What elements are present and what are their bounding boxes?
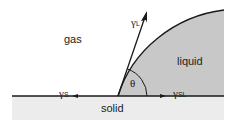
gas-label: gas	[64, 34, 82, 45]
contact-angle-diagram: gas liquid solid θ γL γS γSL	[0, 0, 228, 123]
gamma-s-label: γS	[59, 84, 69, 100]
theta-label: θ	[130, 78, 135, 89]
gamma-s-subscript: S	[64, 91, 69, 98]
gamma-l-subscript: L	[136, 20, 140, 27]
gamma-sl-subscript: SL	[178, 91, 187, 98]
gamma-sl-label: γSL	[173, 84, 186, 100]
liquid-label: liquid	[177, 56, 203, 67]
solid-label: solid	[101, 103, 124, 114]
gamma-l-label: γL	[131, 13, 140, 29]
